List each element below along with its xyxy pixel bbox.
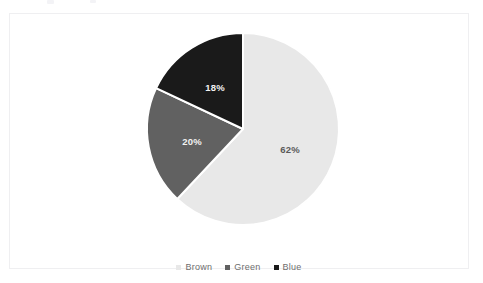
- legend-label: Brown: [185, 263, 212, 272]
- scan-artifact: [90, 0, 96, 3]
- legend-item-brown[interactable]: Brown: [176, 263, 212, 272]
- chart-legend: BrownGreenBlue: [10, 263, 468, 272]
- legend-item-green[interactable]: Green: [225, 263, 260, 272]
- pie-chart-graphic: [10, 14, 470, 270]
- legend-label: Green: [234, 263, 260, 272]
- chart-frame: 62%20%18% BrownGreenBlue: [9, 13, 469, 269]
- legend-label: Blue: [283, 263, 302, 272]
- screenshot-canvas: 62%20%18% BrownGreenBlue: [0, 0, 483, 283]
- scan-artifact: [47, 0, 54, 4]
- legend-swatch-icon: [274, 265, 279, 270]
- legend-item-blue[interactable]: Blue: [274, 263, 302, 272]
- legend-swatch-icon: [225, 265, 230, 270]
- pie-chart-plot-area: 62%20%18%: [10, 14, 468, 268]
- legend-swatch-icon: [176, 265, 181, 270]
